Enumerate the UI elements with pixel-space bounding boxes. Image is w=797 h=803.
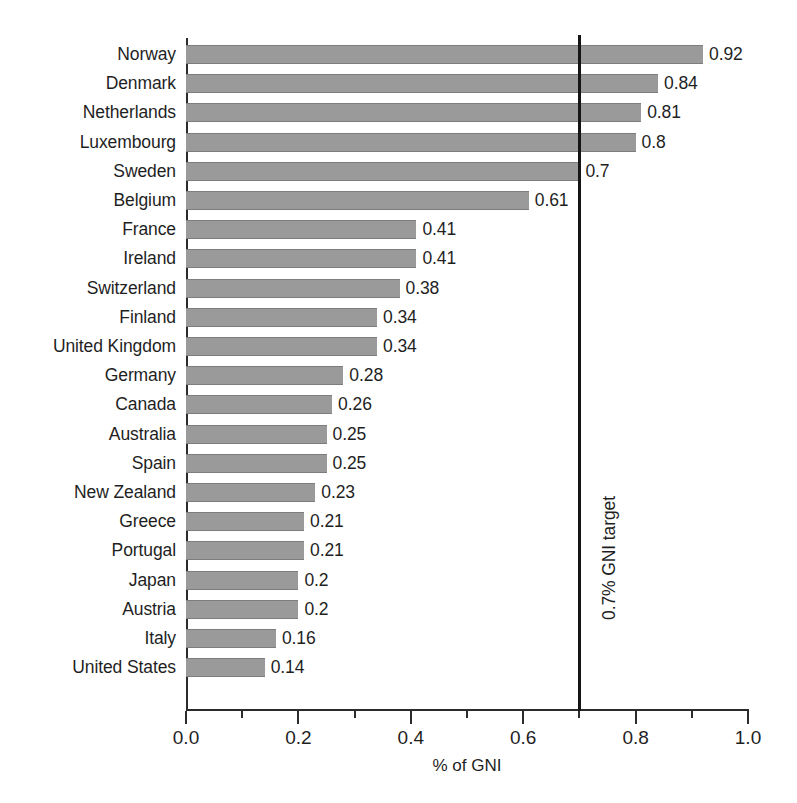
bar-value-label: 0.61 — [535, 186, 569, 215]
x-tick-label: 1.0 — [735, 727, 761, 749]
x-tick-label: 0.2 — [285, 727, 311, 749]
bar-category-label: France — [122, 215, 176, 244]
bar-value-label: 0.7 — [585, 157, 609, 186]
bar-value-label: 0.21 — [310, 507, 344, 536]
x-tick-label: 0.8 — [622, 727, 648, 749]
bar-value-label: 0.81 — [647, 98, 681, 127]
bar-row: Denmark0.84 — [186, 69, 748, 98]
bar-value-label: 0.25 — [333, 449, 367, 478]
x-tick-major — [297, 711, 299, 724]
bar-value-label: 0.14 — [271, 653, 305, 682]
x-tick-major — [747, 711, 749, 724]
x-tick-label: 0.0 — [173, 727, 199, 749]
bar-value-label: 0.41 — [422, 244, 456, 273]
x-tick-minor — [354, 711, 356, 718]
bar-row: Ireland0.41 — [186, 244, 748, 273]
bar-category-label: United Kingdom — [53, 332, 176, 361]
bar-value-label: 0.21 — [310, 536, 344, 565]
bar — [186, 629, 276, 648]
bar — [186, 600, 298, 619]
plot-area: Norway0.92Denmark0.84Netherlands0.81Luxe… — [186, 38, 748, 710]
bar-value-label: 0.84 — [664, 69, 698, 98]
bar-value-label: 0.2 — [304, 595, 328, 624]
bar-category-label: Denmark — [106, 69, 176, 98]
bar-category-label: Ireland — [123, 244, 176, 273]
bar-row: New Zealand0.23 — [186, 478, 748, 507]
bar-category-label: Netherlands — [83, 98, 176, 127]
x-axis-title: % of GNI — [186, 756, 748, 776]
bar — [186, 308, 377, 327]
bar — [186, 454, 327, 473]
x-tick-minor — [241, 711, 243, 718]
bar — [186, 45, 703, 64]
bar-row: Italy0.16 — [186, 624, 748, 653]
bar-row: United States0.14 — [186, 653, 748, 682]
bar-category-label: Canada — [115, 390, 176, 419]
bar-category-label: Finland — [119, 303, 176, 332]
x-tick-major — [522, 711, 524, 724]
x-tick-minor — [691, 711, 693, 718]
bar — [186, 571, 298, 590]
bar-category-label: Belgium — [113, 186, 176, 215]
bar-row: Switzerland0.38 — [186, 274, 748, 303]
bar-category-label: Japan — [129, 566, 176, 595]
gni-target-line-label: 0.7% GNI target — [599, 496, 620, 620]
bar — [186, 133, 636, 152]
bar — [186, 337, 377, 356]
bar-category-label: United States — [72, 653, 176, 682]
bar-value-label: 0.92 — [709, 40, 743, 69]
bar-value-label: 0.16 — [282, 624, 316, 653]
x-tick-major — [635, 711, 637, 724]
x-tick-major — [185, 711, 187, 724]
bar-category-label: Greece — [119, 507, 176, 536]
bar-chart-figure: Norway0.92Denmark0.84Netherlands0.81Luxe… — [0, 0, 797, 803]
bar — [186, 103, 641, 122]
bar — [186, 483, 315, 502]
bar-category-label: New Zealand — [74, 478, 176, 507]
bar — [186, 425, 327, 444]
bar — [186, 74, 658, 93]
bar-category-label: Australia — [109, 420, 176, 449]
bar-row: Austria0.2 — [186, 595, 748, 624]
bar-value-label: 0.41 — [422, 215, 456, 244]
x-tick-label: 0.6 — [510, 727, 536, 749]
bar — [186, 366, 343, 385]
bar-row: Belgium0.61 — [186, 186, 748, 215]
bar — [186, 162, 579, 181]
bar — [186, 220, 416, 239]
x-tick-minor — [578, 711, 580, 718]
bar-row: Norway0.92 — [186, 40, 748, 69]
bar-value-label: 0.2 — [304, 566, 328, 595]
bar-row: Canada0.26 — [186, 390, 748, 419]
bar-category-label: Spain — [132, 449, 176, 478]
bar-row: France0.41 — [186, 215, 748, 244]
bar-value-label: 0.34 — [383, 303, 417, 332]
bar-category-label: Germany — [105, 361, 176, 390]
gni-target-line — [578, 35, 581, 711]
bar-row: Netherlands0.81 — [186, 98, 748, 127]
bar-value-label: 0.23 — [321, 478, 355, 507]
bar-category-label: Italy — [144, 624, 176, 653]
bar-category-label: Norway — [117, 40, 176, 69]
bar-category-label: Portugal — [112, 536, 176, 565]
bar — [186, 249, 416, 268]
bar-row: Luxembourg0.8 — [186, 128, 748, 157]
bar-value-label: 0.38 — [406, 274, 440, 303]
bar — [186, 191, 529, 210]
bar-row: United Kingdom0.34 — [186, 332, 748, 361]
x-tick-label: 0.4 — [398, 727, 424, 749]
bar-row: Finland0.34 — [186, 303, 748, 332]
bar — [186, 279, 400, 298]
bar — [186, 512, 304, 531]
bar — [186, 541, 304, 560]
bar-value-label: 0.25 — [333, 420, 367, 449]
bar-value-label: 0.28 — [349, 361, 383, 390]
x-tick-minor — [466, 711, 468, 718]
bar-row: Greece0.21 — [186, 507, 748, 536]
bar-category-label: Luxembourg — [80, 128, 176, 157]
bar-category-label: Austria — [122, 595, 176, 624]
bar-value-label: 0.8 — [642, 128, 666, 157]
bar-row: Germany0.28 — [186, 361, 748, 390]
bar-row: Australia0.25 — [186, 420, 748, 449]
bar-value-label: 0.26 — [338, 390, 372, 419]
